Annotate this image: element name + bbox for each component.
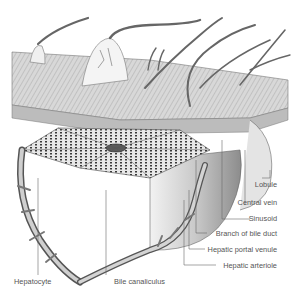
label-central-vein: Central vein [238,198,277,207]
label-branch-of-bile-duct: Branch of bile duct [216,229,277,238]
label-sinusoid: Sinusoid [249,214,277,223]
liver-lobule-illustration [0,0,296,287]
top-tissue-slab [12,52,288,134]
label-hepatic-arteriole: Hepatic arteriole [223,261,277,270]
label-hepatic-portal-venule: Hepatic portal venule [208,245,277,254]
label-hepatocyte: Hepatocyte [14,277,51,286]
label-bile-canaliculus: Bile canaliculus [114,277,165,286]
label-lobule: Lobule [255,180,277,189]
